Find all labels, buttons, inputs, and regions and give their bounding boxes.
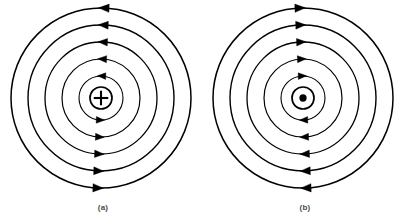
field-direction-arrowhead — [300, 167, 310, 175]
panel-a-field-lines — [11, 4, 191, 192]
field-direction-arrowhead — [95, 133, 104, 140]
magnetic-field-figure: (a) (b) — [0, 0, 403, 224]
field-direction-arrowhead — [301, 184, 312, 192]
field-direction-arrowhead — [98, 56, 107, 63]
field-direction-arrowhead — [297, 56, 306, 63]
field-direction-arrowhead — [98, 21, 108, 29]
field-direction-arrowhead — [299, 117, 308, 124]
field-direction-arrowhead — [298, 73, 307, 80]
field-direction-arrowhead — [296, 21, 306, 29]
field-direction-arrowhead — [98, 38, 108, 45]
field-direction-arrowhead — [295, 4, 306, 12]
field-direction-arrowhead — [296, 38, 306, 45]
field-direction-arrowhead — [300, 133, 309, 140]
panel-b-field-lines — [213, 4, 393, 192]
field-direction-arrowhead — [93, 184, 104, 192]
field-direction-arrowhead — [99, 4, 110, 12]
field-direction-arrowhead — [97, 73, 106, 80]
current-out-dot — [299, 94, 306, 101]
field-direction-arrowhead — [94, 167, 104, 175]
field-direction-arrowhead — [300, 150, 310, 157]
field-line-canvas — [0, 0, 403, 224]
field-direction-arrowhead — [94, 150, 104, 157]
field-direction-arrowhead — [96, 117, 105, 124]
panel-a-caption: (a) — [83, 203, 123, 212]
panel-b-caption: (b) — [285, 203, 325, 212]
